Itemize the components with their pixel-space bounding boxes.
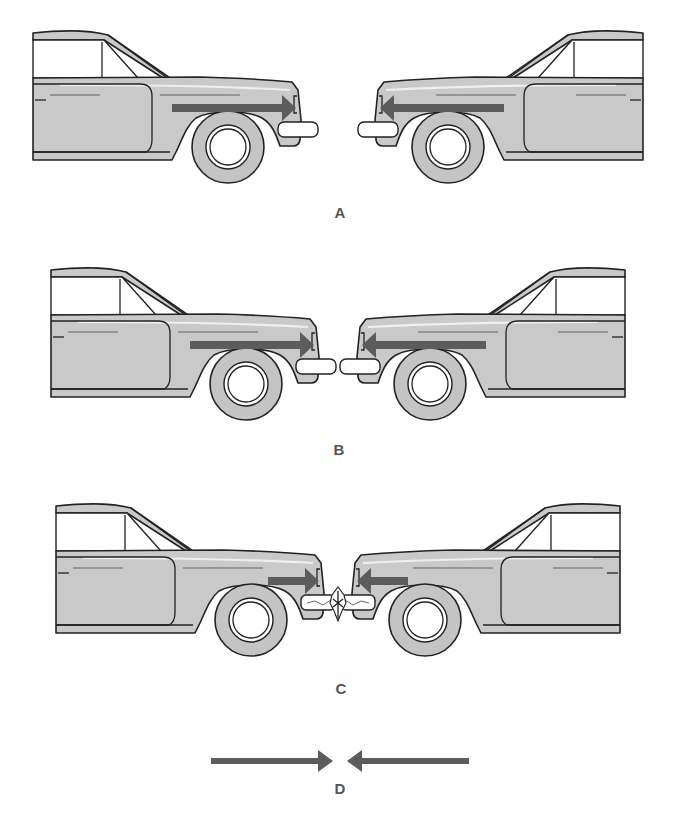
panel-d — [211, 750, 469, 772]
front-bumper — [296, 359, 336, 374]
panel-b-right-car — [340, 268, 625, 420]
panel-b — [51, 268, 625, 420]
front-bumper — [358, 122, 398, 137]
force-vector-right-icon — [211, 750, 333, 772]
panel-b-left-car — [51, 268, 336, 420]
collision-diagram — [0, 0, 677, 822]
front-bumper — [340, 359, 380, 374]
force-vector-left-icon — [347, 750, 469, 772]
panel-a-right-car — [358, 31, 643, 183]
panel-label-a: A — [335, 204, 346, 221]
panel-a-left-car — [33, 31, 318, 183]
panel-label-d: D — [335, 780, 346, 797]
panel-label-b: B — [334, 441, 345, 458]
front-bumper — [278, 122, 318, 137]
panel-a — [33, 31, 643, 183]
panel-c — [56, 504, 620, 656]
panel-c-right-car — [341, 504, 620, 656]
panel-label-c: C — [336, 680, 347, 697]
panel-c-left-car — [56, 504, 335, 656]
